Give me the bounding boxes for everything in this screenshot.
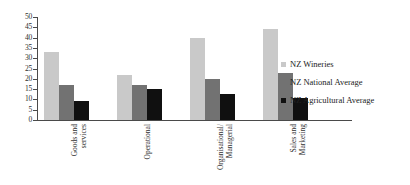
legend-item[interactable]: NZ Agricultural Average: [281, 93, 407, 108]
legend-label: NZ Wineries: [290, 60, 334, 69]
y-tick-mark: [33, 110, 37, 111]
legend-label: NZ Agricultural Average: [290, 96, 374, 105]
bar: [74, 101, 89, 120]
x-axis-line: [37, 120, 352, 121]
legend-item[interactable]: NZ Wineries: [281, 57, 407, 72]
y-tick-label: 0: [16, 116, 32, 124]
legend-swatch-icon: [281, 62, 286, 67]
y-tick-label: 30: [16, 54, 32, 62]
y-tick-label: 40: [16, 34, 32, 42]
y-tick-label: 35: [16, 44, 32, 52]
y-tick-label: 50: [16, 13, 32, 21]
y-tick-label: 25: [16, 65, 32, 73]
y-tick-label: 10: [16, 95, 32, 103]
x-category-label: Sales and Marketing: [290, 124, 307, 185]
y-tick-mark: [33, 48, 37, 49]
legend-swatch-icon: [281, 80, 286, 85]
y-tick-mark: [33, 17, 37, 18]
y-tick-mark: [33, 89, 37, 90]
x-category-label: Operational: [144, 124, 153, 185]
legend: NZ WineriesNZ National AverageNZ Agricul…: [281, 57, 407, 111]
x-category-label: Organisational/ Managerial: [217, 124, 234, 185]
y-tick-mark: [33, 27, 37, 28]
y-tick-label: 20: [16, 75, 32, 83]
legend-item[interactable]: NZ National Average: [281, 75, 407, 90]
bar: [147, 89, 162, 120]
bar: [59, 85, 74, 120]
y-tick-mark: [33, 120, 37, 121]
bar: [132, 85, 147, 120]
y-tick-label: 45: [16, 23, 32, 31]
y-axis-tick-labels: 50454035302520151050: [14, 0, 32, 185]
bar-chart: 50454035302520151050 Goods and servicesO…: [0, 0, 410, 185]
bar: [117, 75, 132, 120]
y-tick-mark: [33, 99, 37, 100]
y-tick-mark: [33, 58, 37, 59]
legend-swatch-icon: [281, 98, 286, 103]
bar: [44, 52, 59, 120]
legend-label: NZ National Average: [290, 78, 363, 87]
y-tick-mark: [33, 79, 37, 80]
bar: [263, 29, 278, 120]
bar: [220, 94, 235, 120]
y-axis-line: [37, 17, 38, 121]
bar: [205, 79, 220, 120]
y-tick-label: 5: [16, 106, 32, 114]
y-tick-label: 15: [16, 85, 32, 93]
bar: [190, 38, 205, 120]
y-tick-mark: [33, 69, 37, 70]
y-tick-mark: [33, 38, 37, 39]
x-category-label: Goods and services: [71, 124, 88, 185]
